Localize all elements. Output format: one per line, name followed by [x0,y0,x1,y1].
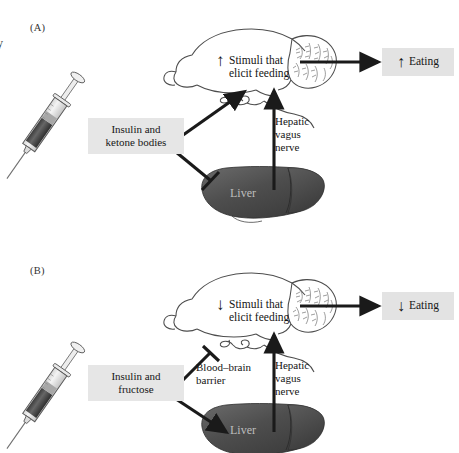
panel-a-label: (A) [30,22,45,33]
connector-drug-to-liver-inhibitory-a [176,152,219,190]
bbb-label-b-line2: barrier [196,374,225,386]
liver-b [202,404,325,453]
vagus-nerve-label-b-line1: Hepatic [275,359,309,371]
liver-a [202,167,325,223]
drug-label-box-b: Insulin and fructose [88,365,184,401]
stimuli-label-b: Stimuli that elicit feeding [229,298,289,325]
panel-b-graphics [0,227,459,453]
syringe-a [0,69,88,184]
stimuli-label-a-line1: Stimuli that [229,54,283,66]
drug-label-a-line1: Insulin and [111,123,160,135]
panel-b-label: (B) [30,265,45,276]
stimuli-label-b-line2: elicit feeding [229,311,289,323]
vagus-nerve-label-b-line2: vagus [275,372,301,384]
panel-a: y (A) [0,0,459,226]
liver-label-b: Liver [230,423,256,437]
stimuli-label-a-line2: elicit feeding [229,67,289,79]
eating-label-a: Eating [409,55,439,69]
vagus-nerve-label-b: Hepatic vagus nerve [275,359,309,398]
eating-up-arrow-icon-a: ↑ [397,54,405,70]
connector-drug-to-liver-b [176,399,226,432]
syringe-b [0,339,88,453]
eating-down-arrow-icon-b: ↓ [397,298,405,314]
bbb-label-b-line1: Blood–brain [196,361,251,373]
panel-b: (B) [0,227,459,453]
stimuli-label-b-line1: Stimuli that [229,298,283,310]
vagus-nerve-label-a-line2: vagus [275,128,301,140]
stimuli-down-arrow-icon-b: ↓ [216,296,225,313]
stimuli-label-a: Stimuli that elicit feeding [229,54,289,81]
connector-drug-to-brain-a [176,92,244,140]
eating-label-b: Eating [409,299,439,313]
drug-label-box-a: Insulin and ketone bodies [88,118,184,154]
vagus-nerve-label-b-line3: nerve [275,385,299,397]
drug-label-b-line1: Insulin and [111,370,160,382]
stimuli-up-arrow-icon-a: ↑ [216,52,225,69]
liver-label-a: Liver [230,186,256,200]
eating-box-b: ↓ Eating [382,292,454,320]
cropped-caption-text: y [0,36,3,51]
blood-brain-barrier-label-b: Blood–brain barrier [196,361,251,387]
vagus-nerve-label-a: Hepatic vagus nerve [275,115,309,154]
drug-label-b-line2: fructose [118,383,153,395]
drug-label-a-line2: ketone bodies [106,136,167,148]
vagus-nerve-label-a-line3: nerve [275,141,299,153]
vagus-nerve-label-a-line1: Hepatic [275,115,309,127]
eating-box-a: ↑ Eating [382,48,454,76]
